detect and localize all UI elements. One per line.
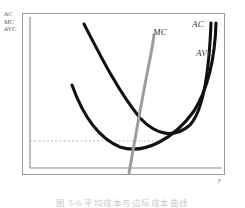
y-axis-label-ac: AC [4, 10, 22, 18]
curve-label-avc: AVC [196, 48, 213, 58]
cost-curve-figure: AC MC AVC AC AVC MC y 图 5-6 平均成本与边际成本曲线 [0, 0, 245, 208]
y-axis-label-mc: MC [4, 18, 22, 26]
mc-curve [129, 35, 154, 173]
curve-label-ac: AC [192, 19, 204, 29]
figure-caption: 图 5-6 平均成本与边际成本曲线 [0, 196, 245, 208]
y-axis-label-avc: AVC [4, 25, 22, 33]
x-axis-label: y [218, 176, 221, 184]
y-axis-variable-labels: AC MC AVC [4, 10, 22, 33]
curve-label-mc: MC [153, 27, 167, 37]
plot-area [22, 13, 225, 175]
